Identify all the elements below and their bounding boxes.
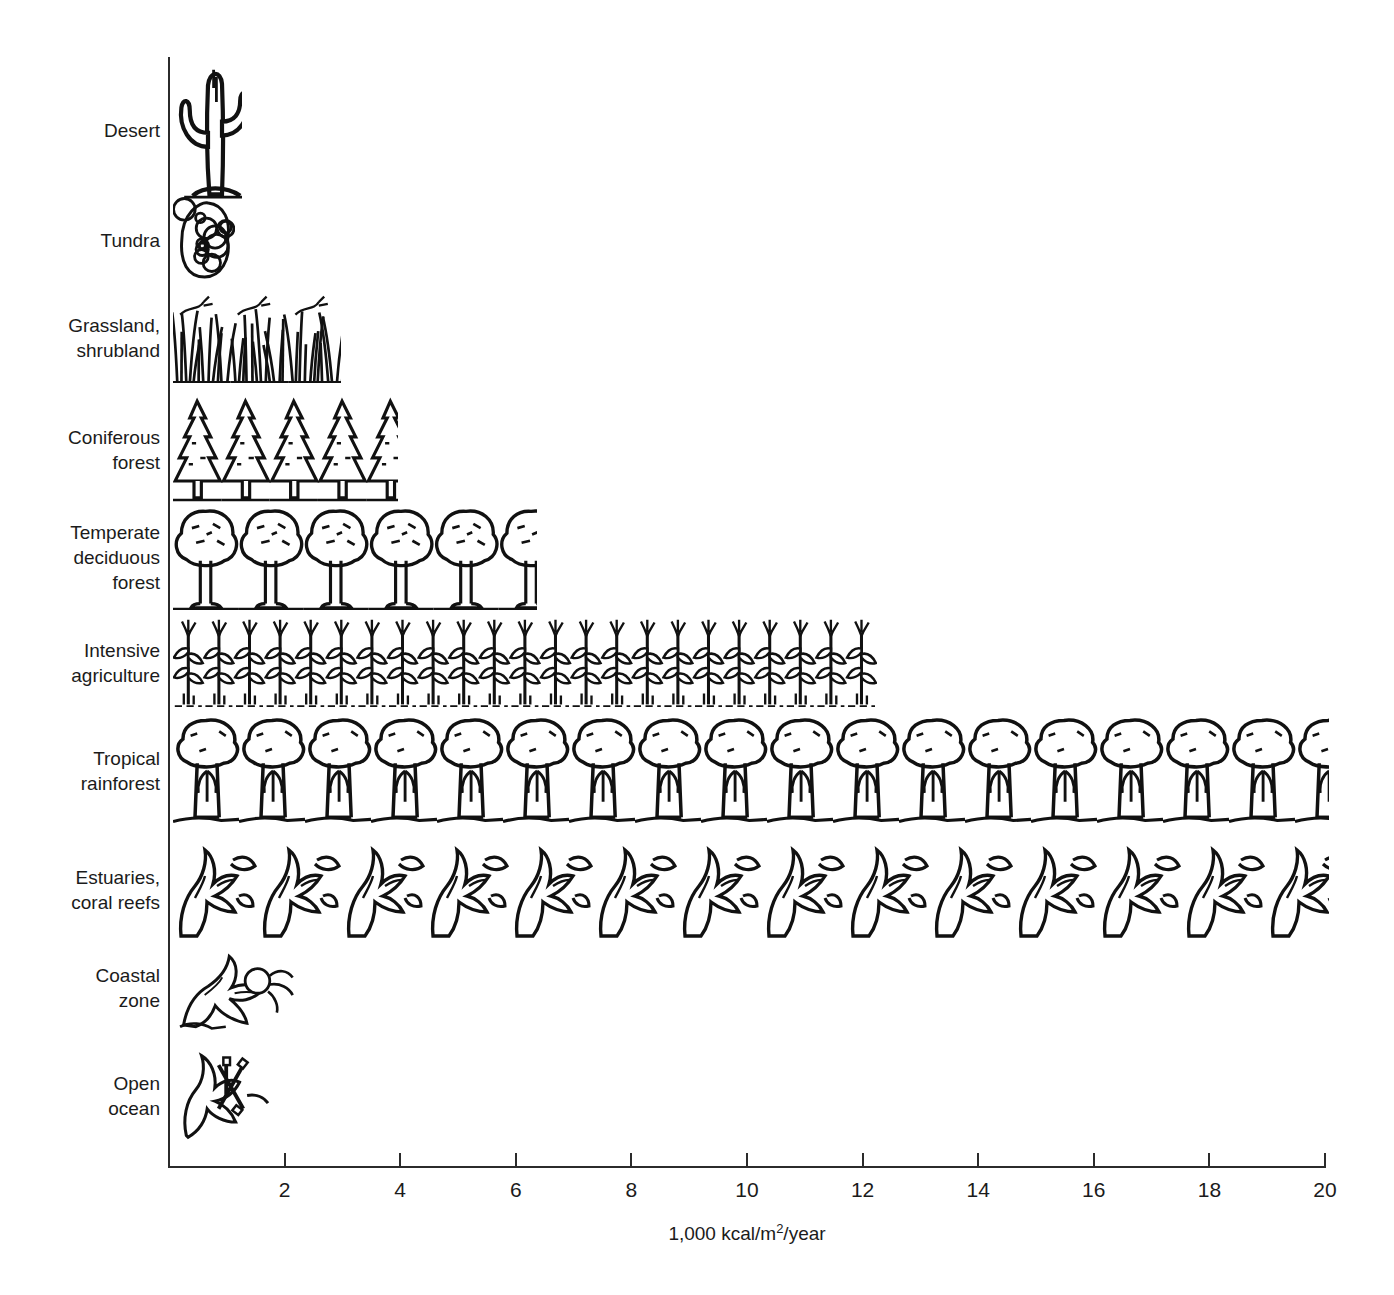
category-label-tropical-rainforest: Tropical rainforest <box>0 746 160 796</box>
bar-lichen <box>173 196 260 284</box>
x-tick-label-14: 14 <box>938 1178 1018 1202</box>
category-label-intensive-agriculture: Intensive agriculture <box>0 638 160 688</box>
x-tick-label-16: 16 <box>1054 1178 1134 1202</box>
x-tick-10 <box>746 1153 748 1166</box>
bar-deciduous <box>173 505 537 610</box>
x-tick-label-2: 2 <box>245 1178 325 1202</box>
x-tick-8 <box>630 1153 632 1166</box>
x-tick-6 <box>515 1153 517 1166</box>
net-primary-productivity-chart: 2468101214161820 DesertTundraGrassland, … <box>0 0 1394 1295</box>
bar-kelp <box>173 944 346 1032</box>
bar-plankton <box>173 1048 300 1143</box>
bar-conifer <box>173 397 398 502</box>
x-tick-16 <box>1093 1153 1095 1166</box>
x-tick-label-8: 8 <box>591 1178 671 1202</box>
x-axis-title: 1,000 kcal/m2/year <box>547 1221 947 1245</box>
category-label-estuaries-coral-reefs: Estuaries, coral reefs <box>0 865 160 915</box>
category-label-temperate-deciduous-forest: Temperate deciduous forest <box>0 520 160 595</box>
x-tick-label-20: 20 <box>1285 1178 1365 1202</box>
y-axis-line <box>168 57 170 1166</box>
x-tick-label-18: 18 <box>1169 1178 1249 1202</box>
category-label-tundra: Tundra <box>0 228 160 253</box>
x-tick-20 <box>1324 1153 1326 1166</box>
bar-seaweed <box>173 840 1329 940</box>
bar-rainforest <box>173 716 1329 826</box>
bar-corn <box>173 618 884 708</box>
x-tick-2 <box>284 1153 286 1166</box>
x-tick-4 <box>399 1153 401 1166</box>
x-tick-label-4: 4 <box>360 1178 440 1202</box>
category-label-coastal-zone: Coastal zone <box>0 963 160 1013</box>
x-tick-label-10: 10 <box>707 1178 787 1202</box>
x-tick-label-6: 6 <box>476 1178 556 1202</box>
category-label-grassland-shrubland: Grassland, shrubland <box>0 313 160 363</box>
x-tick-12 <box>862 1153 864 1166</box>
category-label-open-ocean: Open ocean <box>0 1071 160 1121</box>
category-label-desert: Desert <box>0 118 160 143</box>
bar-cactus <box>173 60 242 200</box>
x-tick-18 <box>1208 1153 1210 1166</box>
x-tick-14 <box>977 1153 979 1166</box>
x-tick-label-12: 12 <box>823 1178 903 1202</box>
bar-grass <box>173 293 341 383</box>
x-axis-line <box>168 1166 1326 1168</box>
category-label-coniferous-forest: Coniferous forest <box>0 425 160 475</box>
